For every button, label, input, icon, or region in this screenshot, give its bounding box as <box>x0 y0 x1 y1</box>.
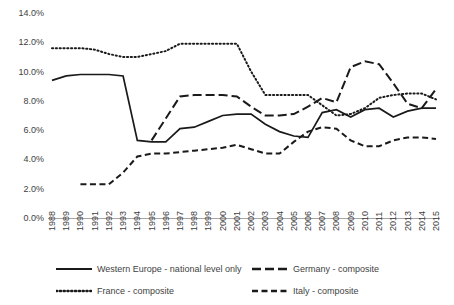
series-canvas <box>48 13 440 218</box>
x-axis-tick-label: 2012 <box>388 220 398 232</box>
series-line <box>80 127 436 184</box>
legend-item-label: Italy - composite <box>293 286 359 296</box>
line-chart: 0.0%2.0%4.0%6.0%8.0%10.0%12.0%14.0% 1988… <box>0 0 454 305</box>
series-line <box>152 61 436 140</box>
y-axis-tick-label: 0.0% <box>0 214 44 223</box>
legend-swatch-icon <box>56 264 92 274</box>
x-axis-tick-label: 1989 <box>61 220 71 232</box>
x-axis-tick-label: 1999 <box>203 220 213 232</box>
x-axis-tick-label: 2004 <box>275 220 285 232</box>
chart-legend: Western Europe - national level onlyGerm… <box>56 262 446 302</box>
legend-item[interactable]: Western Europe - national level only <box>56 262 241 276</box>
legend-item[interactable]: Italy - composite <box>252 284 359 298</box>
y-axis-tick-label: 6.0% <box>0 126 44 135</box>
x-axis-tick-label: 1990 <box>75 220 85 232</box>
x-axis-tick-label: 1994 <box>132 220 142 232</box>
x-axis: 1988198919901991199219931994199519961997… <box>48 221 440 255</box>
x-axis-tick-label: 2009 <box>346 220 356 232</box>
x-axis-tick-label: 2010 <box>360 220 370 232</box>
x-axis-tick-label: 2013 <box>403 220 413 232</box>
x-axis-tick-label: 1991 <box>90 220 100 232</box>
x-axis-tick-label: 2002 <box>246 220 256 232</box>
x-axis-tick-label: 1993 <box>118 220 128 232</box>
x-axis-tick-label: 1996 <box>161 220 171 232</box>
x-axis-tick-label: 1995 <box>147 220 157 232</box>
x-axis-tick-label: 2003 <box>260 220 270 232</box>
x-axis-tick-label: 1992 <box>104 220 114 232</box>
legend-swatch-icon <box>56 286 92 296</box>
series-line <box>52 44 436 116</box>
y-axis-tick-label: 8.0% <box>0 97 44 106</box>
legend-item-label: Germany - composite <box>293 264 379 274</box>
x-axis-tick-label: 2005 <box>289 220 299 232</box>
y-axis-tick-label: 4.0% <box>0 155 44 164</box>
x-axis-tick-label: 1997 <box>175 220 185 232</box>
y-axis-tick-label: 14.0% <box>0 9 44 18</box>
x-axis-tick-label: 2014 <box>417 220 427 232</box>
legend-item-label: France - composite <box>97 286 174 296</box>
legend-item[interactable]: France - composite <box>56 284 174 298</box>
x-axis-tick-label: 2015 <box>431 220 441 232</box>
x-axis-tick-label: 2001 <box>232 220 242 232</box>
y-axis-tick-label: 10.0% <box>0 68 44 77</box>
x-axis-tick-label: 2007 <box>317 220 327 232</box>
x-axis-tick-label: 2011 <box>374 220 384 232</box>
y-axis: 0.0%2.0%4.0%6.0%8.0%10.0%12.0%14.0% <box>0 0 44 232</box>
legend-item-label: Western Europe - national level only <box>97 264 241 274</box>
x-axis-tick-label: 2006 <box>303 220 313 232</box>
x-axis-tick-label: 1998 <box>189 220 199 232</box>
x-axis-tick-label: 2000 <box>218 220 228 232</box>
legend-swatch-icon <box>252 264 288 274</box>
y-axis-tick-label: 2.0% <box>0 185 44 194</box>
legend-swatch-icon <box>252 286 288 296</box>
x-axis-tick-label: 1988 <box>47 220 57 232</box>
x-axis-tick-label: 2008 <box>331 220 341 232</box>
legend-item[interactable]: Germany - composite <box>252 262 379 276</box>
series-line <box>52 75 436 142</box>
plot-area <box>48 13 440 218</box>
y-axis-tick-label: 12.0% <box>0 38 44 47</box>
